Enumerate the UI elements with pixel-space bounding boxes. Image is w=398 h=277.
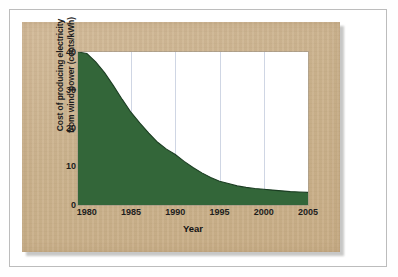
x-tick-label-1995: 1995 bbox=[200, 207, 240, 217]
y-axis-label: Cost of producing electricity from wind … bbox=[55, 0, 77, 159]
scanned-page: 010203040 Cost of producing electricity … bbox=[0, 0, 398, 277]
area-series bbox=[78, 52, 308, 205]
x-tick-label-1990: 1990 bbox=[155, 207, 195, 217]
wind-power-cost-chart: 010203040 Cost of producing electricity … bbox=[22, 22, 340, 252]
y-tick-label-10: 10 bbox=[50, 162, 76, 171]
x-axis-ticks: 198019851990199520002005 bbox=[78, 207, 308, 221]
area-fill-path bbox=[78, 52, 308, 205]
x-tick-label-1985: 1985 bbox=[111, 207, 151, 217]
x-tick-label-1980: 1980 bbox=[67, 207, 107, 217]
x-axis-label: Year bbox=[78, 223, 308, 234]
y-axis-label-line-1: Cost of producing electricity bbox=[55, 0, 66, 159]
x-tick-label-2000: 2000 bbox=[244, 207, 284, 217]
plot-area bbox=[78, 52, 308, 205]
plot-inner bbox=[78, 52, 308, 205]
y-axis-label-line-2: from wind power (cents/kWh) bbox=[66, 0, 77, 159]
x-tick-label-2005: 2005 bbox=[288, 207, 328, 217]
